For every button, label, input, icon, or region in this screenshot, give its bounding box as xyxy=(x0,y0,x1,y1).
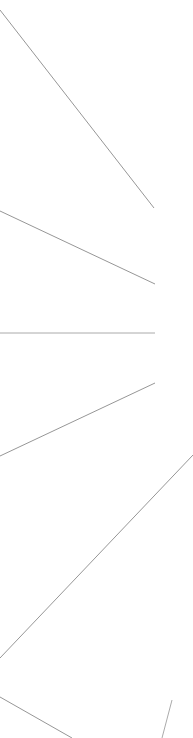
ray-line xyxy=(0,10,154,208)
ray-line xyxy=(0,383,155,456)
line-diagram-svg xyxy=(0,0,193,738)
ray-line xyxy=(0,697,72,738)
ray-line xyxy=(0,211,155,284)
ray-group xyxy=(0,10,193,738)
diagram-canvas xyxy=(0,0,193,738)
ray-line xyxy=(162,700,172,738)
ray-line xyxy=(0,455,193,658)
